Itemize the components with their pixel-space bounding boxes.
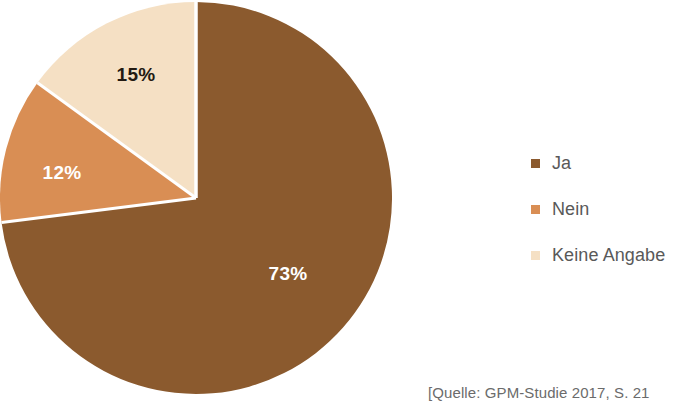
legend-item-nein[interactable]: Nein xyxy=(531,194,691,224)
legend-swatch-nein xyxy=(531,205,540,214)
legend-label-nein: Nein xyxy=(552,199,589,220)
pie-chart: 73%12%15% xyxy=(0,0,392,401)
legend-swatch-keine-angabe xyxy=(531,251,540,260)
source-citation: [Quelle: GPM-Studie 2017, S. 21 xyxy=(428,384,650,401)
legend-label-ja: Ja xyxy=(552,153,571,174)
chart-legend: Ja Nein Keine Angabe xyxy=(531,148,691,286)
pie-svg xyxy=(0,0,392,401)
legend-swatch-ja xyxy=(531,159,540,168)
chart-canvas: 73%12%15% Ja Nein Keine Angabe [Quelle: … xyxy=(0,0,691,401)
legend-label-keine-angabe: Keine Angabe xyxy=(552,245,665,266)
legend-item-ja[interactable]: Ja xyxy=(531,148,691,178)
legend-item-keine-angabe[interactable]: Keine Angabe xyxy=(531,240,691,270)
